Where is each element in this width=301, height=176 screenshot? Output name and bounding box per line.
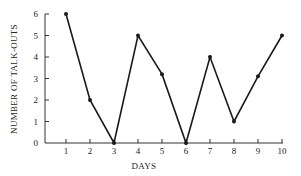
- data-point-marker: [280, 34, 284, 38]
- x-tick-label: 7: [208, 146, 213, 156]
- x-tick-label: 2: [88, 146, 93, 156]
- x-tick-label: 1: [64, 146, 69, 156]
- line-chart: 0123456 12345678910 DAYS NUMBER OF TALK-…: [0, 0, 301, 176]
- x-axis: 12345678910: [45, 139, 287, 156]
- x-tick-label: 3: [112, 146, 117, 156]
- data-point-marker: [112, 141, 116, 145]
- y-axis: 0123456: [34, 9, 50, 148]
- y-tick-label: 5: [34, 31, 39, 41]
- data-point-marker: [256, 74, 260, 78]
- y-axis-title: NUMBER OF TALK-OUTS: [9, 24, 19, 134]
- data-point-marker: [136, 34, 140, 38]
- x-axis-title: DAYS: [132, 161, 157, 171]
- series-line: [66, 14, 282, 143]
- x-tick-label: 6: [184, 146, 189, 156]
- x-tick-label: 10: [278, 146, 288, 156]
- data-point-marker: [184, 141, 188, 145]
- data-point-marker: [232, 120, 236, 124]
- data-point-marker: [208, 55, 212, 59]
- y-tick-label: 0: [34, 138, 39, 148]
- x-tick-label: 9: [256, 146, 261, 156]
- y-tick-label: 4: [34, 52, 39, 62]
- y-tick-label: 2: [34, 95, 39, 105]
- data-point-marker: [64, 12, 68, 16]
- x-tick-label: 8: [232, 146, 237, 156]
- y-tick-label: 6: [34, 9, 39, 19]
- data-point-marker: [160, 72, 164, 76]
- x-tick-label: 5: [160, 146, 165, 156]
- y-tick-label: 1: [34, 117, 39, 127]
- y-tick-label: 3: [34, 74, 39, 84]
- data-series: [64, 12, 284, 145]
- x-tick-label: 4: [136, 146, 141, 156]
- data-point-marker: [88, 98, 92, 102]
